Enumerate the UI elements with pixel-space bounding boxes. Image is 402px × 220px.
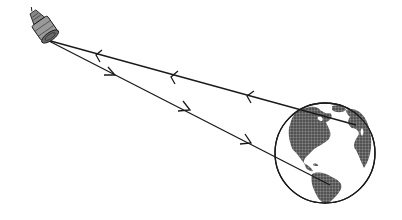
satellite-icon — [22, 2, 61, 45]
arrow-right-icon — [104, 67, 115, 75]
arrow-right-icon — [240, 134, 251, 144]
downlink-signal-path — [47, 40, 330, 185]
arrow-left-icon — [171, 71, 178, 84]
satellite-earth-diagram — [0, 0, 402, 220]
uplink-signal-path — [47, 40, 356, 125]
arrow-left-icon — [96, 50, 102, 62]
earth-globe — [275, 103, 375, 203]
